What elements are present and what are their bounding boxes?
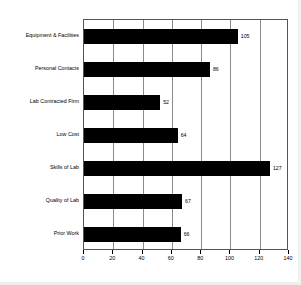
bar	[84, 194, 182, 209]
x-axis-tick-label: 120	[254, 256, 263, 261]
x-axis-tick-label: 20	[109, 256, 115, 261]
bar-value-label: 66	[184, 232, 190, 237]
bar-value-label: 67	[185, 199, 191, 204]
x-axis-tick-label: 100	[225, 256, 234, 261]
bar-chart: 1058652641276766 Equipment & FacilitiesP…	[0, 0, 301, 285]
bar-value-label: 64	[181, 133, 187, 138]
plot-area: 1058652641276766	[83, 19, 288, 250]
category-label: Low Cost	[57, 132, 79, 137]
category-label: Equipment & Facilities	[26, 33, 79, 38]
bar-row: 127	[84, 161, 287, 176]
bar	[84, 128, 178, 143]
x-axis-tick-labels: 020406080100120140	[83, 256, 288, 266]
category-axis-labels: Equipment & FacilitiesPersonal ContactsL…	[0, 19, 79, 250]
category-label: Prior Work	[54, 231, 79, 236]
bar	[84, 29, 238, 44]
bar-value-label: 86	[213, 67, 219, 72]
x-axis-tick	[112, 250, 113, 254]
x-axis-tick-label: 60	[168, 256, 174, 261]
category-label: Personal Contacts	[35, 66, 79, 71]
bar-value-label: 127	[273, 166, 282, 171]
x-axis-tick-label: 0	[82, 256, 85, 261]
bar-row: 67	[84, 194, 287, 209]
x-axis-tick-label: 40	[139, 256, 145, 261]
bar-row: 66	[84, 227, 287, 242]
bar	[84, 161, 270, 176]
x-axis-ticks	[83, 250, 288, 254]
bar	[84, 62, 210, 77]
x-axis-tick	[229, 250, 230, 254]
category-label: Skills of Lab	[50, 165, 79, 170]
x-axis-tick-label: 80	[197, 256, 203, 261]
x-axis-tick	[259, 250, 260, 254]
bar-value-label: 52	[163, 100, 169, 105]
bar-row: 86	[84, 62, 287, 77]
x-axis-tick	[200, 250, 201, 254]
x-axis-tick	[171, 250, 172, 254]
x-axis-tick	[288, 250, 289, 254]
scan-edge-right	[298, 0, 301, 285]
bar-value-label: 105	[241, 34, 250, 39]
bar-rows: 1058652641276766	[84, 20, 287, 249]
bar-row: 64	[84, 128, 287, 143]
bar	[84, 95, 160, 110]
bar-row: 105	[84, 29, 287, 44]
x-axis-tick	[83, 250, 84, 254]
x-axis-tick-label: 140	[284, 256, 293, 261]
category-label: Lab Contracted Firm	[30, 99, 79, 104]
category-label: Quality of Lab	[46, 198, 79, 203]
bar	[84, 227, 181, 242]
bar-row: 52	[84, 95, 287, 110]
x-axis-tick	[142, 250, 143, 254]
